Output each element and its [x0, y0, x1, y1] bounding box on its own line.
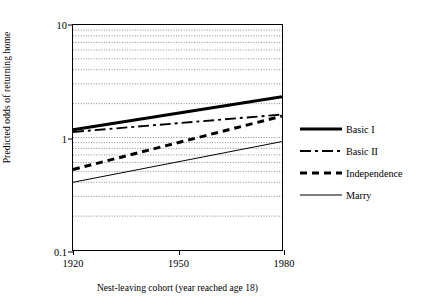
legend-item-marry[interactable]: Marry	[300, 184, 422, 206]
legend-label: Independence	[346, 168, 403, 179]
legend-line-sample	[300, 124, 342, 134]
chart-legend: Basic IBasic IIIndependenceMarry	[300, 118, 422, 206]
legend-label: Basic I	[346, 124, 375, 135]
legend-item-independence[interactable]: Independence	[300, 162, 422, 184]
chart-figure: 1010.1 192019501980 Predicted odds of re…	[0, 0, 423, 306]
x-tick-mark	[284, 250, 285, 255]
legend-line-sample	[300, 168, 342, 178]
y-tick-label: 1	[62, 133, 67, 144]
legend-line-sample	[300, 190, 342, 200]
y-tick-mark	[68, 25, 73, 26]
x-axis-title: Nest-leaving cohort (year reached age 18…	[72, 282, 283, 293]
x-tick-mark	[73, 250, 74, 255]
data-series-layer	[73, 25, 282, 250]
y-axis-title: Predicted odds of returning home	[1, 0, 12, 208]
series-line-marry	[73, 142, 282, 183]
legend-line-sample	[300, 146, 342, 156]
x-tick-label: 1980	[274, 258, 295, 269]
legend-label: Basic II	[346, 146, 378, 157]
legend-item-basic-i[interactable]: Basic I	[300, 118, 422, 140]
y-tick-label: 0.1	[54, 247, 67, 258]
legend-label: Marry	[346, 190, 371, 201]
x-tick-label: 1920	[63, 258, 84, 269]
plot-area: 1010.1 192019501980	[72, 24, 283, 251]
x-tick-mark	[179, 250, 180, 255]
legend-item-basic-ii[interactable]: Basic II	[300, 140, 422, 162]
y-tick-mark	[68, 138, 73, 139]
x-tick-label: 1950	[168, 258, 189, 269]
y-tick-label: 10	[57, 20, 67, 31]
